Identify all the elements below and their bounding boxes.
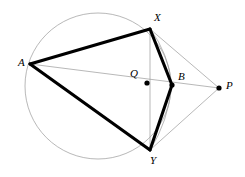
point-label-B: B <box>178 71 185 82</box>
point-label-A: A <box>18 57 25 68</box>
point-dot-Q <box>144 80 149 85</box>
point-label-X: X <box>154 12 161 23</box>
point-label-Q: Q <box>130 68 138 79</box>
point-label-P: P <box>226 80 233 91</box>
point-label-Y: Y <box>150 155 156 166</box>
segment-XB <box>150 29 172 85</box>
point-dot-P <box>216 85 221 90</box>
thin-arc-group <box>150 29 172 150</box>
circumcircle-group <box>25 13 171 159</box>
segment-AX <box>30 29 150 64</box>
geometry-figure: AXQBPY <box>0 0 245 177</box>
geometry-canvas <box>0 0 245 177</box>
circumcircle <box>25 13 171 159</box>
point-dot-B <box>169 82 174 87</box>
thick-segment-group <box>30 29 172 150</box>
